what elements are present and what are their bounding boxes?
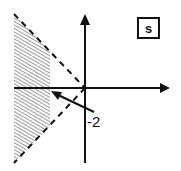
imaginary-axis-arrowhead-icon [80, 14, 90, 25]
s-plane-diagram: s -2 [0, 0, 181, 171]
real-axis-arrowhead-icon [160, 83, 170, 93]
arrow-to-minus-2 [56, 94, 94, 112]
plane-label: s [145, 21, 152, 36]
minus-two-label: -2 [87, 113, 100, 130]
